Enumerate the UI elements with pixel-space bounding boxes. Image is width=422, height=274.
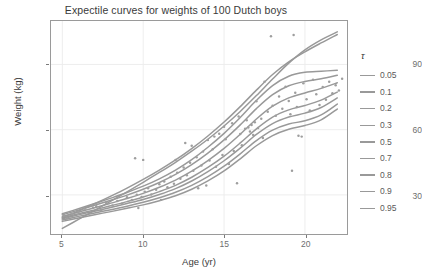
scatter-point (325, 98, 327, 100)
scatter-point (174, 159, 176, 161)
legend-item-0.2[interactable]: 0.2 (360, 100, 420, 117)
scatter-point (254, 121, 256, 123)
scatter-point (135, 193, 137, 195)
scatter-point (228, 163, 230, 165)
legend-item-label: 0.9 (380, 186, 392, 196)
legend-item-label: 0.2 (380, 103, 392, 113)
scatter-point (260, 118, 262, 120)
scatter-point (292, 34, 294, 36)
scatter-point (233, 150, 235, 152)
scatter-point (331, 92, 333, 94)
scatter-point (338, 89, 340, 91)
scatter-point (163, 180, 165, 182)
scatter-point (270, 35, 272, 37)
scatter-point (176, 171, 178, 173)
legend-item-label: 0.8 (380, 170, 392, 180)
scatter-point (284, 85, 286, 87)
scatter-point (173, 183, 175, 185)
scatter-point (121, 202, 123, 204)
scatter-point (300, 135, 302, 137)
legend-line-icon (360, 120, 375, 130)
scatter-point (302, 82, 304, 84)
scatter-point (200, 164, 202, 166)
scatter-point (289, 113, 291, 115)
scatter-point (291, 170, 293, 172)
y-tick-mark-60 (46, 130, 49, 131)
x-tick-mark-10 (143, 235, 144, 238)
scatter-point (202, 150, 204, 152)
scatter-point (66, 217, 68, 219)
legend-line-icon (360, 170, 375, 180)
scatter-point (241, 144, 243, 146)
y-axis-title: Weight (kg) (12, 57, 23, 147)
legend-line-icon (360, 103, 375, 113)
scatter-point (166, 186, 168, 188)
scatter-point (318, 104, 320, 106)
scatter-point (190, 145, 192, 147)
scatter-point (158, 183, 160, 185)
legend-item-0.7[interactable]: 0.7 (360, 150, 420, 167)
legend-line-icon (360, 70, 375, 80)
scatter-point (155, 188, 157, 190)
scatter-point (294, 91, 296, 93)
scatter-point (257, 127, 259, 129)
legend-item-0.8[interactable]: 0.8 (360, 167, 420, 184)
scatter-point (231, 122, 233, 124)
scatter-point (250, 124, 252, 126)
scatter-point (195, 156, 197, 158)
legend-item-0.95[interactable]: 0.95 (360, 200, 420, 217)
x-tick-mark-20 (306, 235, 307, 238)
scatter-point (218, 133, 220, 135)
legend-item-0.5[interactable]: 0.5 (360, 133, 420, 150)
legend-item-label: 0.3 (380, 120, 392, 130)
scatter-point (71, 213, 73, 215)
legend-items: 0.050.10.20.30.50.70.80.90.95 (360, 67, 420, 216)
scatter-point (142, 159, 144, 161)
expectile-curve-0.5 (62, 83, 337, 217)
scatter-point (131, 199, 133, 201)
scatter-point (309, 109, 311, 111)
scatter-point (179, 178, 181, 180)
scatter-point (134, 157, 136, 159)
scatter-point (126, 196, 128, 198)
scatter-point (189, 161, 191, 163)
legend: τ 0.050.10.20.30.50.70.80.90.95 (360, 50, 420, 216)
scatter-point (212, 148, 214, 150)
scatter-point (267, 111, 269, 113)
legend-item-0.1[interactable]: 0.1 (360, 84, 420, 101)
scatter-point (90, 204, 92, 206)
scatter-point (237, 115, 239, 117)
legend-item-label: 0.95 (380, 203, 397, 213)
x-tick-mark-15 (224, 235, 225, 238)
scatter-point (275, 115, 277, 117)
scatter-point (147, 187, 149, 189)
legend-item-label: 0.7 (380, 153, 392, 163)
legend-item-0.05[interactable]: 0.05 (360, 67, 420, 84)
scatter-point (281, 108, 283, 110)
scatter-point (95, 205, 97, 207)
plot-canvas (51, 21, 347, 234)
legend-title: τ (361, 50, 420, 61)
scatter-point (271, 105, 273, 107)
scatter-point (315, 93, 317, 95)
scatter-point (278, 95, 280, 97)
scatter-point (186, 174, 188, 176)
scatter-point (341, 78, 343, 80)
legend-line-icon (360, 203, 375, 213)
legend-item-label: 0.5 (380, 137, 392, 147)
legend-item-0.3[interactable]: 0.3 (360, 117, 420, 134)
expectile-curve-0.9 (62, 34, 337, 217)
scatter-point (111, 204, 113, 206)
scatter-point (223, 126, 225, 128)
legend-line-icon (360, 87, 375, 97)
scatter-point (244, 128, 246, 130)
scatter-point (116, 200, 118, 202)
scatter-point (288, 100, 290, 102)
y-tick-mark-30 (46, 196, 49, 197)
scatter-point (137, 207, 139, 209)
scatter-point (245, 119, 247, 121)
legend-item-0.9[interactable]: 0.9 (360, 183, 420, 200)
scatter-point (334, 84, 336, 86)
legend-item-label: 0.1 (380, 87, 392, 97)
scatter-point (305, 98, 307, 100)
